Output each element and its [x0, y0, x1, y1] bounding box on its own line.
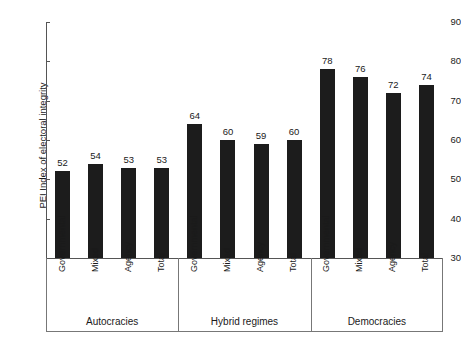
- group-separator: [442, 258, 443, 331]
- bar-value-label: 72: [379, 80, 407, 90]
- bar: [419, 85, 434, 258]
- group-label: Hybrid regimes: [178, 316, 310, 327]
- bar: [287, 140, 302, 258]
- group-band: AutocraciesHybrid regimesDemocracies: [46, 258, 443, 331]
- bar: [254, 144, 269, 258]
- plot-area: 525453536460596078767274: [46, 22, 443, 258]
- bar-value-label: 53: [115, 155, 143, 165]
- bar: [154, 168, 169, 258]
- bar-value-label: 64: [181, 111, 209, 121]
- bar-value-label: 78: [313, 56, 341, 66]
- bar-chart: PEI Index of electoral integrity 3040506…: [0, 0, 461, 348]
- bar: [353, 77, 368, 258]
- group-separator: [46, 258, 47, 331]
- bar: [220, 140, 235, 258]
- group-label: Autocracies: [46, 316, 178, 327]
- bar: [386, 93, 401, 258]
- bar-value-label: 53: [148, 155, 176, 165]
- bar-value-label: 54: [82, 151, 110, 161]
- bar-value-label: 74: [412, 72, 440, 82]
- bar-value-label: 76: [346, 64, 374, 74]
- group-label: Democracies: [311, 316, 443, 327]
- bar: [88, 164, 103, 258]
- bar-value-label: 60: [280, 127, 308, 137]
- group-separator: [178, 258, 179, 331]
- group-band-bottom-border: [46, 331, 443, 332]
- bar-value-label: 60: [214, 127, 242, 137]
- bar-value-label: 52: [49, 158, 77, 168]
- bar-value-label: 59: [247, 131, 275, 141]
- group-separator: [311, 258, 312, 331]
